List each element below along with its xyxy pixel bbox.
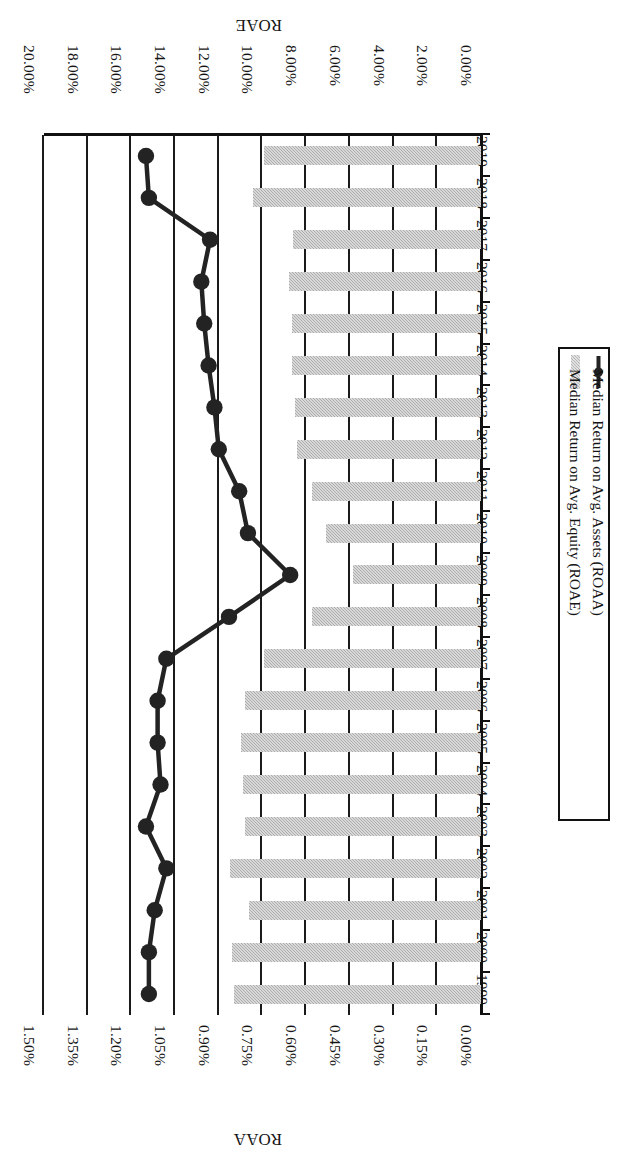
axis-tick bbox=[481, 426, 490, 428]
secondary-tick-label: 1.20% bbox=[107, 1025, 125, 1066]
primary-tick-label: 2.00% bbox=[413, 45, 431, 86]
data-point-marker bbox=[240, 525, 256, 541]
legend-label-roaa: Median Return on Avg. Assets (ROAA) bbox=[589, 369, 607, 616]
chart-legend: Median Return on Avg. Equity (ROAE) Medi… bbox=[558, 347, 610, 821]
secondary-tick-label: 0.30% bbox=[370, 1025, 388, 1066]
primary-axis-title: ROAE bbox=[236, 15, 282, 35]
roaa-markers bbox=[138, 148, 299, 1003]
axis-tick bbox=[481, 468, 490, 470]
axis-tick bbox=[481, 552, 490, 554]
data-point-marker bbox=[206, 399, 222, 415]
legend-entry-roae: Median Return on Avg. Equity (ROAE) bbox=[560, 349, 584, 819]
primary-tick-label: 12.00% bbox=[195, 45, 213, 94]
axis-tick bbox=[481, 384, 490, 386]
secondary-tick-label: 0.75% bbox=[239, 1025, 257, 1066]
axis-tick bbox=[481, 133, 490, 135]
axis-tick bbox=[481, 301, 490, 303]
data-point-marker bbox=[231, 483, 247, 499]
chart-stage: 0.00%2.00%4.00%6.00%8.00%10.00%12.00%14.… bbox=[0, 0, 634, 1173]
axis-tick bbox=[481, 594, 490, 596]
axis-tick bbox=[481, 259, 490, 261]
axis-tick bbox=[481, 678, 490, 680]
data-point-marker bbox=[202, 232, 218, 248]
primary-tick-label: 16.00% bbox=[107, 45, 125, 94]
primary-tick-label: 6.00% bbox=[326, 45, 344, 86]
data-point-marker bbox=[141, 944, 157, 960]
secondary-tick-label: 1.50% bbox=[20, 1025, 38, 1066]
data-point-marker bbox=[193, 273, 209, 289]
axis-tick bbox=[481, 510, 490, 512]
secondary-tick-label: 0.15% bbox=[413, 1025, 431, 1066]
primary-tick-label: 4.00% bbox=[370, 45, 388, 86]
axis-tick bbox=[481, 720, 490, 722]
data-point-marker bbox=[211, 441, 227, 457]
secondary-tick-label: 1.35% bbox=[64, 1025, 82, 1066]
data-point-marker bbox=[141, 986, 157, 1002]
axis-tick bbox=[481, 636, 490, 638]
data-point-marker bbox=[282, 567, 298, 583]
primary-tick-label: 14.00% bbox=[151, 45, 169, 94]
secondary-tick-label: 0.00% bbox=[457, 1025, 475, 1066]
data-point-marker bbox=[196, 315, 212, 331]
secondary-tick-label: 1.05% bbox=[151, 1025, 169, 1066]
plot-area bbox=[44, 135, 481, 1015]
primary-tick-label: 20.00% bbox=[20, 45, 38, 94]
primary-tick-label: 18.00% bbox=[64, 45, 82, 94]
legend-entry-roaa: Median Return on Avg. Assets (ROAA) bbox=[583, 349, 607, 819]
data-point-marker bbox=[149, 734, 165, 750]
primary-tick-label: 8.00% bbox=[282, 45, 300, 86]
axis-tick bbox=[481, 845, 490, 847]
axis-tick bbox=[481, 929, 490, 931]
axis-tick bbox=[481, 1013, 490, 1015]
axis-tick bbox=[481, 803, 490, 805]
axis-tick bbox=[481, 175, 490, 177]
line-series-roaa bbox=[44, 135, 481, 1015]
axis-tick bbox=[481, 217, 490, 219]
data-point-marker bbox=[138, 148, 154, 164]
secondary-tick-label: 0.45% bbox=[326, 1025, 344, 1066]
axis-tick bbox=[481, 887, 490, 889]
axis-tick bbox=[481, 343, 490, 345]
data-point-marker bbox=[138, 818, 154, 834]
data-point-marker bbox=[158, 651, 174, 667]
axis-tick bbox=[481, 971, 490, 973]
secondary-tick-label: 0.60% bbox=[282, 1025, 300, 1066]
secondary-axis-title: ROAA bbox=[234, 1129, 282, 1149]
primary-tick-label: 0.00% bbox=[457, 45, 475, 86]
data-point-marker bbox=[141, 190, 157, 206]
data-point-marker bbox=[149, 693, 165, 709]
secondary-tick-label: 0.90% bbox=[195, 1025, 213, 1066]
data-point-marker bbox=[147, 902, 163, 918]
data-point-marker bbox=[158, 860, 174, 876]
data-point-marker bbox=[221, 609, 237, 625]
data-point-marker bbox=[152, 776, 168, 792]
primary-tick-label: 10.00% bbox=[239, 45, 257, 94]
axis-tick bbox=[481, 762, 490, 764]
legend-label-roae: Median Return on Avg. Equity (ROAE) bbox=[566, 369, 584, 616]
data-point-marker bbox=[200, 357, 216, 373]
